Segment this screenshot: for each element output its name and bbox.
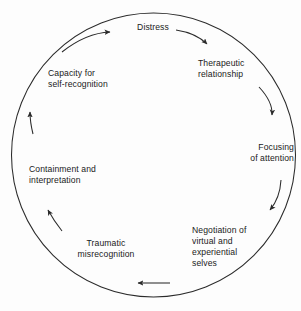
cycle-diagram: Distress Therapeutic relationship Focusi… (0, 0, 301, 311)
node-label-negotiation-of-selves: Negotiation of virtual and experiential … (192, 225, 272, 269)
arrow-traumatic-to-containment (48, 210, 62, 231)
arrow-focusing-to-negotiation (270, 180, 281, 210)
arrow-capacity-to-distress (62, 32, 110, 52)
arrow-containment-to-capacity (30, 112, 33, 134)
node-label-containment-and-interpretation: Containment and interpretation (29, 164, 119, 186)
node-label-therapeutic-relationship: Therapeutic relationship (198, 58, 286, 80)
node-label-capacity-for-self-recognition: Capacity for self-recognition (48, 68, 136, 90)
node-label-focusing-of-attention: Focusing of attention (210, 142, 294, 164)
arrow-therapeutic-to-focusing (259, 87, 272, 115)
node-label-traumatic-misrecognition: Traumatic misrecognition (60, 238, 152, 260)
node-label-distress: Distress (118, 22, 188, 33)
